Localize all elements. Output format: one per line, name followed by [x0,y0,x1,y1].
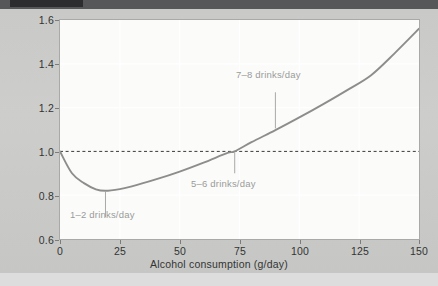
gridlines-group [60,20,419,239]
risk-curve-svg [60,20,419,239]
annotation-mid-label: 5–6 drinks/day [191,178,256,189]
figure-root: Relative risk 1.6 1.4 1.2 1.0 0.8 0.6 0 … [0,0,438,286]
y-tick-label-6: 0.6 [28,234,54,246]
y-tick-label-5: 0.8 [28,190,54,202]
plot-area [59,19,420,240]
x-tick-mark-3 [180,240,181,244]
plot-inner [60,20,419,239]
x-tick-label-1: 0 [57,245,63,257]
scan-artifact-dark-segment [10,0,83,7]
x-tick-mark-4 [240,240,241,244]
y-tick-label-4: 1.0 [28,146,54,158]
x-axis-title: Alcohol consumption (g/day) [0,258,438,270]
scan-artifact-bottom-band [0,273,438,286]
y-tick-label-1: 1.6 [28,14,54,26]
x-tick-label-7: 150 [410,245,428,257]
annotation-high-label: 7–8 drinks/day [236,69,301,80]
y-tick-label-2: 1.4 [28,58,54,70]
x-tick-mark-6 [360,240,361,244]
x-tick-label-4: 75 [234,245,246,257]
x-tick-mark-5 [300,240,301,244]
y-tick-label-3: 1.2 [28,102,54,114]
x-tick-label-6: 125 [351,245,369,257]
x-tick-mark-2 [120,240,121,244]
x-tick-label-2: 25 [114,245,126,257]
x-tick-label-3: 50 [174,245,186,257]
x-tick-mark-1 [60,240,61,244]
x-tick-label-5: 100 [291,245,309,257]
annotation-leader-lines [105,92,275,217]
x-tick-mark-7 [419,240,420,244]
annotation-low-label: 1–2 drinks/day [70,209,135,220]
